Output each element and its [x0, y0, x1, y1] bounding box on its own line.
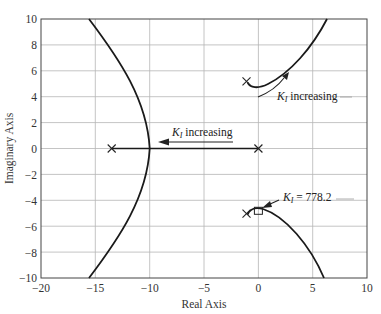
- gain-value-label: KI = 778.2: [282, 191, 332, 205]
- y-tick: −6: [25, 221, 37, 233]
- y-tick: −4: [25, 195, 37, 207]
- gain-annotation: KI = 778.2: [262, 191, 354, 208]
- x-tick: −10: [141, 282, 159, 294]
- y-tick-labels: 10 8 6 4 2 0 −2 −4 −6 −8 −10: [19, 13, 37, 284]
- k-increasing-label-upper: KI increasing: [276, 90, 338, 104]
- root-locus-chart: 10 8 6 4 2 0 −2 −4 −6 −8 −10 −20 −15 −10…: [0, 0, 381, 314]
- arrow-pointer-icon: [262, 201, 272, 208]
- pole-markers: [108, 77, 263, 217]
- real-axis-arrow-annotation: KI increasing: [158, 126, 233, 146]
- y-tick: −2: [25, 169, 37, 181]
- y-tick: 8: [31, 39, 37, 51]
- x-tick: −20: [32, 282, 50, 294]
- y-tick: −8: [25, 247, 37, 259]
- y-tick: 2: [31, 117, 37, 129]
- y-tick: 10: [26, 13, 38, 25]
- pole-x-icon: [243, 210, 251, 218]
- y-tick: 6: [31, 65, 37, 77]
- y-tick: 4: [31, 91, 37, 103]
- x-tick: 5: [310, 282, 316, 294]
- x-tick: −15: [86, 282, 104, 294]
- x-tick: 10: [361, 282, 373, 294]
- k-increasing-label-real: KI increasing: [171, 126, 233, 140]
- upper-branch-arrow-annotation: KI increasing: [258, 72, 352, 104]
- arrow-left-icon: [158, 139, 169, 146]
- pole-x-icon: [243, 77, 251, 85]
- x-axis-label: Real Axis: [181, 298, 227, 310]
- y-axis-label: Imaginary Axis: [3, 112, 16, 184]
- x-tick: 0: [256, 282, 262, 294]
- x-tick: −5: [198, 282, 210, 294]
- y-tick: 0: [31, 143, 37, 155]
- x-tick-labels: −20 −15 −10 −5 0 5 10: [32, 282, 373, 294]
